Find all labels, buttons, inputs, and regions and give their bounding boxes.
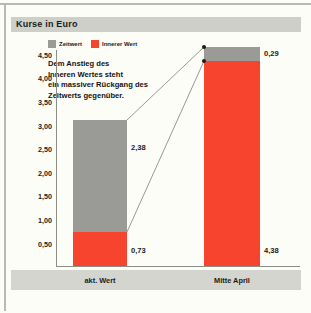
bar-segment-innerer-wert-left — [73, 232, 127, 266]
legend-item-innerer-wert: Innerer Wert — [91, 40, 137, 48]
bar-segment-zeitwert-left — [73, 120, 127, 232]
y-tick-3-00: 3,00 — [38, 122, 52, 131]
left-divider — [4, 3, 6, 311]
y-tick-3-50: 3,50 — [38, 98, 52, 107]
bar-segment-innerer-wert-right — [204, 61, 260, 266]
y-tick-2-00: 2,00 — [38, 169, 52, 178]
legend-label-innerer-wert: Innerer Wert — [102, 41, 137, 47]
y-tick-4-50: 4,50 — [38, 51, 52, 60]
bar-mitte-april — [204, 47, 260, 266]
value-label-zeitwert-right: 0,29 — [264, 49, 279, 58]
annotation-line-4: Zeitwerts gegenüber. — [48, 91, 170, 102]
annotation-line-3: ein massiver Rückgang des — [48, 80, 170, 91]
x-label-mitte-april: Mitte April — [204, 276, 260, 285]
legend-swatch-innerer-wert — [91, 40, 99, 48]
value-label-innerer-wert-left: 0,73 — [131, 246, 146, 255]
annotation-line-1: Dem Anstieg des — [48, 59, 170, 70]
x-label-akt-wert: akt. Wert — [73, 276, 127, 285]
y-axis-line — [56, 50, 57, 266]
x-axis-line — [56, 266, 300, 267]
y-tick-2-50: 2,50 — [38, 145, 52, 154]
y-tick-1-50: 1,50 — [38, 192, 52, 201]
value-label-zeitwert-left: 2,38 — [131, 143, 146, 152]
legend: Zeitwert Innerer Wert — [48, 40, 137, 48]
y-tick-4-00: 4,00 — [38, 74, 52, 83]
annotation-text: Dem Anstieg des Inneren Wertes steht ein… — [48, 59, 170, 101]
value-label-innerer-wert-right: 4,38 — [264, 246, 279, 255]
annotation-line-2: Inneren Wertes steht — [48, 70, 170, 81]
y-tick-0-50: 0,50 — [38, 240, 52, 249]
legend-item-zeitwert: Zeitwert — [48, 40, 82, 48]
bar-akt-wert — [73, 120, 127, 266]
chart-figure: Kurse in Euro Zeitwert Innerer Wert Dem … — [0, 0, 311, 313]
y-axis: 4,50 4,00 3,50 3,00 2,50 2,00 1,50 1,00 … — [14, 0, 52, 313]
y-tick-1-00: 1,00 — [38, 216, 52, 225]
bar-segment-zeitwert-right — [204, 47, 260, 61]
legend-label-zeitwert: Zeitwert — [59, 41, 82, 47]
